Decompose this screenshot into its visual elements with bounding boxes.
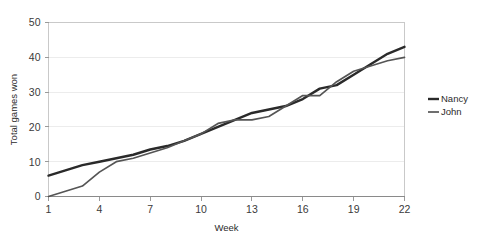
y-tick-label: 40 [29,51,41,63]
chart-canvas: 01020304050 1471013161922 Total games wo… [0,0,483,244]
x-tick-label: 1 [46,203,52,215]
data-series [49,47,405,197]
x-tick-label: 13 [246,203,258,215]
x-axis-tick-labels: 1471013161922 [46,203,411,215]
y-tick-label: 30 [29,86,41,98]
x-tick-label: 22 [399,203,411,215]
legend-label-nancy: Nancy [441,93,468,104]
y-tick-label: 50 [29,16,41,28]
gridlines [49,23,405,162]
x-axis-title: Week [214,222,238,233]
y-axis-tick-labels: 01020304050 [29,16,41,202]
line-chart: 01020304050 1471013161922 Total games wo… [0,0,483,244]
y-tick-label: 10 [29,156,41,168]
chart-legend: NancyJohn [428,93,468,117]
series-line-nancy [49,47,405,176]
x-tick-label: 16 [297,203,309,215]
y-tick-label: 20 [29,121,41,133]
x-tick-label: 10 [195,203,207,215]
x-tick-label: 4 [96,203,102,215]
y-tick-label: 0 [35,190,41,202]
legend-label-john: John [441,106,462,117]
x-tick-label: 19 [348,203,360,215]
x-tick-label: 7 [147,203,153,215]
y-axis-title: Total games won [8,74,19,145]
